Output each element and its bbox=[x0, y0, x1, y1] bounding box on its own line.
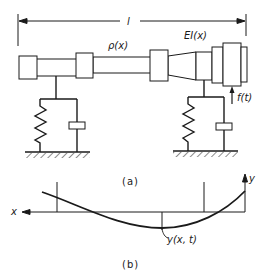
dimension-line bbox=[18, 14, 246, 46]
rotor-shaft bbox=[19, 43, 247, 86]
caption-a: (a) bbox=[122, 176, 139, 187]
end-disk bbox=[223, 43, 241, 86]
x-axis-label: x bbox=[10, 206, 17, 217]
deflection-label: y(x, t) bbox=[166, 234, 197, 245]
right-ground bbox=[173, 151, 238, 157]
right-spring bbox=[183, 97, 194, 151]
end-collar-left bbox=[19, 56, 37, 79]
right-support bbox=[183, 80, 232, 151]
right-damper bbox=[216, 123, 232, 130]
left-ground bbox=[25, 152, 90, 158]
left-spring bbox=[35, 99, 46, 152]
collar-2 bbox=[150, 50, 168, 81]
y-axis-arrow-icon bbox=[243, 174, 248, 182]
force-arrow-icon bbox=[230, 86, 235, 104]
mass-density-label: ρ(x) bbox=[108, 40, 128, 51]
collar-3 bbox=[196, 52, 212, 80]
y-axis-label: y bbox=[248, 173, 256, 184]
rotor-beam-diagram: l ρ(x) EI(x) bbox=[0, 0, 270, 274]
deflection-curve bbox=[42, 191, 245, 228]
stiffness-label: EI(x) bbox=[184, 30, 207, 41]
collar-1 bbox=[76, 53, 93, 78]
left-damper bbox=[69, 122, 85, 129]
length-label: l bbox=[127, 16, 130, 27]
x-axis-arrow-icon bbox=[22, 210, 30, 215]
force-label: f(t) bbox=[237, 92, 252, 103]
left-support bbox=[35, 76, 85, 152]
caption-b: (b) bbox=[122, 259, 139, 270]
